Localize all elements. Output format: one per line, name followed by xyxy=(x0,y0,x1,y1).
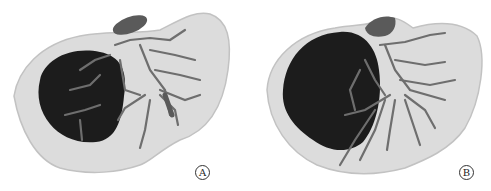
panel-b: B xyxy=(245,0,490,191)
panel-label-a: A xyxy=(195,165,210,180)
panel-a: A xyxy=(0,0,245,191)
liver-render-a xyxy=(0,0,245,191)
liver-render-b xyxy=(245,0,491,191)
panel-label-b: B xyxy=(459,165,474,180)
